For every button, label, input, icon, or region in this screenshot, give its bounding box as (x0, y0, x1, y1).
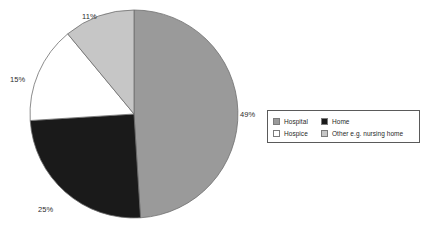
legend-swatch-hospital (273, 118, 280, 125)
pie-chart-figure: 49% 25% 15% 11% Hospital Home Hospice Ot… (0, 0, 436, 238)
legend-label-hospital: Hospital (284, 118, 308, 125)
legend-swatch-other (321, 130, 328, 137)
legend-label-other: Other e.g. nursing home (332, 130, 403, 137)
data-label-hospice: 15% (10, 75, 25, 84)
legend-label-home: Home (332, 118, 350, 125)
legend-item-hospice[interactable]: Hospice (273, 127, 321, 139)
pie-slices (30, 10, 238, 218)
legend-label-hospice: Hospice (284, 130, 308, 137)
legend-grid: Hospital Home Hospice Other e.g. nursing… (273, 115, 416, 139)
data-label-hospital: 49% (240, 110, 255, 119)
legend-item-other[interactable]: Other e.g. nursing home (321, 127, 416, 139)
legend-item-hospital[interactable]: Hospital (273, 115, 321, 127)
chart-legend: Hospital Home Hospice Other e.g. nursing… (267, 110, 420, 143)
legend-swatch-hospice (273, 130, 280, 137)
legend-swatch-home (321, 118, 328, 125)
pie-slice-hospital[interactable] (134, 10, 238, 218)
pie-slice-home[interactable] (30, 114, 140, 218)
legend-item-home[interactable]: Home (321, 115, 416, 127)
data-label-other: 11% (82, 12, 97, 21)
data-label-home: 25% (38, 205, 53, 214)
